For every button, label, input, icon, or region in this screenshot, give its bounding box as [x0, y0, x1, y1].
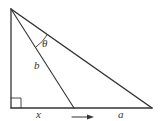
- label-theta: θ: [42, 37, 48, 49]
- hypotenuse: [11, 9, 152, 108]
- label-x: x: [35, 108, 41, 120]
- right-angle-marker: [11, 98, 21, 108]
- label-b: b: [34, 59, 40, 71]
- segment-b: [11, 9, 74, 108]
- triangle-diagram: θ b x a: [0, 0, 165, 121]
- motion-arrow-head-icon: [87, 115, 94, 120]
- label-a: a: [118, 108, 124, 120]
